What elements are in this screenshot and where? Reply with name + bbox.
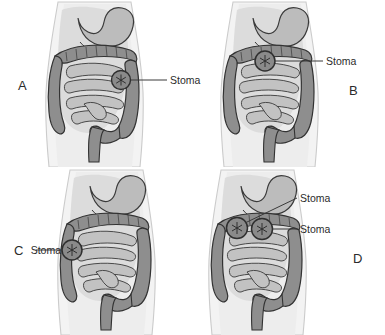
panel-d-stoma-label-lower: Stoma bbox=[300, 224, 330, 235]
stoma-locations-figure: A Stoma bbox=[0, 0, 385, 335]
panel-d: D Stoma Stoma bbox=[193, 168, 385, 335]
panel-b: B Stoma bbox=[193, 0, 385, 167]
panel-d-letter: D bbox=[353, 252, 363, 265]
panel-c: C Stoma bbox=[0, 168, 192, 335]
panel-b-letter: B bbox=[349, 84, 358, 97]
panel-b-stoma-label: Stoma bbox=[326, 56, 356, 67]
panel-d-stoma-label-upper: Stoma bbox=[300, 193, 330, 204]
panel-a-letter: A bbox=[18, 79, 27, 92]
panel-a-leader-lines bbox=[0, 0, 192, 167]
panel-c-stoma-label: Stoma bbox=[0, 245, 61, 256]
panel-a: A Stoma bbox=[0, 0, 192, 167]
